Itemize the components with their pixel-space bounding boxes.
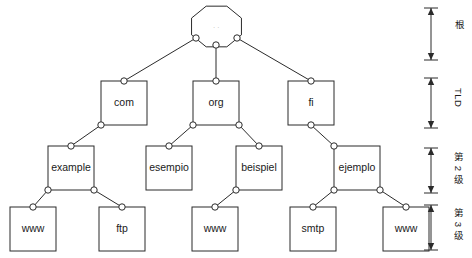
tier-label-level2: 第 2 级 — [453, 152, 463, 185]
port-www1-in — [30, 204, 36, 210]
node-label-org: org — [208, 96, 223, 108]
node-label-www3: www — [394, 222, 418, 234]
port-ejemplo-in — [331, 143, 337, 149]
port-ftp-in — [119, 204, 125, 210]
tier-arrowhead-down-level2 — [428, 186, 434, 193]
diagram-canvas: . .comorgfiexampleesempiobeispielejemplo… — [0, 0, 472, 258]
tier-label-level3: 第 3 级 — [453, 208, 463, 241]
port-com-in — [121, 78, 127, 84]
edge-beispiel-to-www2 — [215, 190, 236, 207]
node-label-ejemplo: ejemplo — [339, 161, 376, 173]
port-example-in — [68, 143, 74, 149]
port-root-out — [213, 42, 219, 48]
tier-arrowhead-up-level2 — [428, 148, 434, 155]
node-label-esempio: esempio — [149, 161, 189, 173]
tier-label-root: 根 — [454, 20, 464, 31]
port-ejemplo-out — [377, 187, 383, 193]
port-beispiel-in — [256, 143, 262, 149]
edge-org-to-beispiel — [239, 125, 259, 146]
node-label-www2: www — [203, 222, 227, 234]
tier-arrowhead-up-tld — [428, 78, 434, 85]
port-root-out — [234, 35, 240, 41]
port-esempio-in — [166, 143, 172, 149]
port-smtp-in — [310, 204, 316, 210]
port-www2-in — [212, 204, 218, 210]
edge-org-to-esempio — [169, 125, 193, 146]
edge-fi-to-ejemplo — [311, 125, 334, 146]
dns-hierarchy-diagram: . .comorgfiexampleesempiobeispielejemplo… — [0, 0, 472, 258]
port-fi-out — [308, 122, 314, 128]
node-label-beispiel: beispiel — [241, 161, 277, 173]
edge-ejemplo-to-smtp — [313, 190, 334, 207]
port-ejemplo-out — [331, 187, 337, 193]
tier-arrowhead-down-root — [428, 53, 434, 60]
port-example-out — [45, 187, 51, 193]
node-label-com: com — [114, 96, 134, 108]
node-label-fi: fi — [308, 96, 313, 108]
port-example-out — [91, 187, 97, 193]
edge-root-to-com — [124, 38, 196, 81]
port-beispiel-out — [233, 187, 239, 193]
tier-label-tld: TLD — [453, 88, 463, 107]
port-fi-in — [308, 78, 314, 84]
port-root-out — [193, 35, 199, 41]
port-org-out — [190, 122, 196, 128]
edge-example-to-ftp — [94, 190, 122, 207]
node-label-smtp: smtp — [302, 222, 325, 234]
port-org-in — [213, 78, 219, 84]
edge-com-to-example — [71, 125, 101, 146]
node-label-example: example — [51, 161, 91, 173]
node-layer: . .comorgfiexampleesempiobeispielejemplo… — [10, 6, 429, 251]
tier-arrowhead-down-tld — [428, 121, 434, 128]
edge-root-to-fi — [237, 38, 311, 81]
edge-ejemplo-to-www3 — [380, 190, 406, 207]
port-com-out — [98, 122, 104, 128]
node-label-www1: www — [21, 222, 45, 234]
root-node-label: . . — [213, 23, 220, 29]
port-org-out — [236, 122, 242, 128]
tier-arrowhead-up-root — [428, 8, 434, 15]
port-www3-in — [403, 204, 409, 210]
node-label-ftp: ftp — [116, 222, 128, 234]
